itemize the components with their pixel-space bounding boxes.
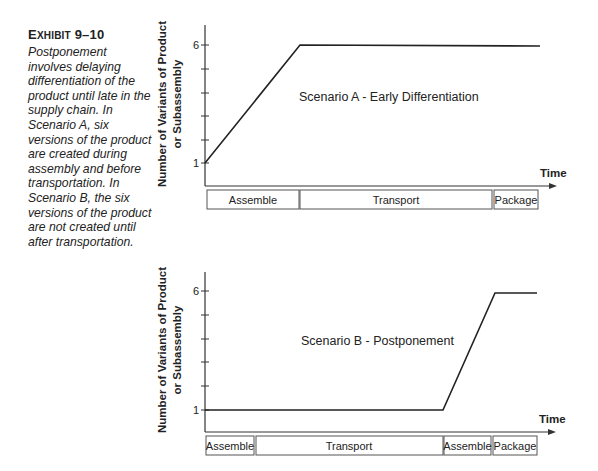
x-axis-arrow-icon bbox=[549, 183, 557, 189]
stage-label-assemble-2: Assemble bbox=[443, 440, 491, 452]
stage-boxes: Assemble Transport Package bbox=[207, 190, 538, 209]
y-axis-label-line1: Number of Variants of Product bbox=[156, 267, 168, 433]
y-axis-label-line2: or Subassembly bbox=[171, 59, 183, 148]
chart-scenario-b: Number of Variants of Product or Subasse… bbox=[156, 267, 566, 455]
stage-label-package: Package bbox=[495, 194, 538, 206]
stage-label-transport: Transport bbox=[326, 440, 373, 452]
x-axis-label: Time bbox=[539, 413, 566, 425]
stage-boxes: Assemble Transport Assemble Package bbox=[206, 436, 537, 455]
variants-line bbox=[205, 293, 537, 410]
x-axis-label: Time bbox=[540, 167, 567, 179]
y-tick-6: 6 bbox=[193, 285, 199, 297]
stage-label-transport: Transport bbox=[373, 194, 420, 206]
y-tick-1: 1 bbox=[193, 404, 199, 416]
scenario-a-title: Scenario A - Early Differentiation bbox=[299, 90, 479, 104]
chart-scenario-a: Number of Variants of Product or Subasse… bbox=[156, 21, 567, 209]
stage-label-assemble: Assemble bbox=[206, 440, 254, 452]
x-axis-arrow-icon bbox=[548, 429, 556, 435]
y-axis-label-line1: Number of Variants of Product bbox=[156, 21, 168, 187]
y-axis-label-line2: or Subassembly bbox=[171, 305, 183, 394]
stage-label-assemble: Assemble bbox=[229, 194, 277, 206]
y-tick-6: 6 bbox=[193, 39, 199, 51]
diagram-canvas: Number of Variants of Product or Subasse… bbox=[0, 0, 598, 471]
scenario-b-title: Scenario B - Postponement bbox=[301, 334, 454, 348]
y-tick-1: 1 bbox=[193, 157, 199, 169]
stage-label-package: Package bbox=[494, 440, 537, 452]
variants-line bbox=[205, 45, 540, 163]
